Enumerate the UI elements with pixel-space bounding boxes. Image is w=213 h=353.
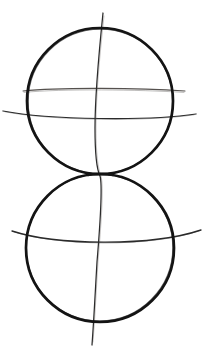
drawing-canvas — [0, 0, 213, 353]
paper-background — [0, 0, 213, 353]
spheres-tangent-point — [88, 174, 113, 175]
sphere-construction-sketch — [0, 0, 213, 353]
